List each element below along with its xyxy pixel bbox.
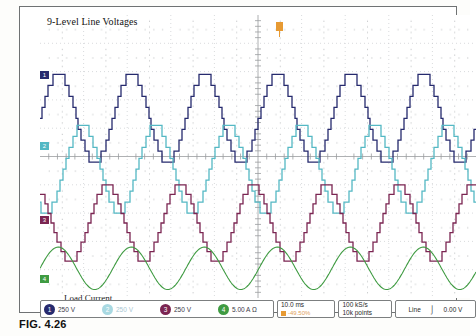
graticule-plot-area: 1 2 3 4 <box>40 15 476 298</box>
readout-bar: 1 250 V 2 250 V 3 250 V 4 5.00 A Ω 10.0 … <box>40 300 476 318</box>
channel-2-scale: 250 V <box>116 306 133 313</box>
channel-1-scale: 250 V <box>58 306 75 313</box>
trigger-offset-icon <box>281 311 286 316</box>
waveform-svg <box>40 15 476 298</box>
timebase-value: 10.0 ms <box>281 301 304 309</box>
acquisition-readout[interactable]: 100 kS/s 10k points <box>338 300 391 318</box>
channel-4-readout[interactable]: 4 5.00 A Ω <box>215 304 273 315</box>
channel-1-badge[interactable]: 1 <box>44 304 55 315</box>
channel-4-ground-marker[interactable]: 4 <box>40 275 49 283</box>
oscilloscope-display: 1 2 3 4 9-Level Line Voltages Load Curre… <box>19 6 457 313</box>
channel-3-ground-marker[interactable]: 3 <box>40 216 49 224</box>
channel-2-readout[interactable]: 2 250 V <box>99 304 157 315</box>
trigger-readout[interactable]: Line ⌡ 0.00 V <box>395 300 476 318</box>
channel-readout-group: 1 250 V 2 250 V 3 250 V 4 5.00 A Ω <box>40 300 274 318</box>
trigger-offset-readout: -49.50% <box>281 309 310 317</box>
record-length-value: 10k points <box>342 309 372 317</box>
channel-4-badge[interactable]: 4 <box>218 304 229 315</box>
channel-2-ground-marker[interactable]: 2 <box>40 142 49 150</box>
figure-caption: FIG. 4.26 <box>19 318 67 330</box>
channel-1-readout[interactable]: 1 250 V <box>41 304 99 315</box>
channel-4-scale: 5.00 A Ω <box>232 306 257 313</box>
rising-edge-icon: ⌡ <box>430 305 435 314</box>
timebase-readout[interactable]: 10.0 ms -49.50% <box>277 300 335 318</box>
trigger-position-marker[interactable] <box>276 22 283 31</box>
channel-1-ground-marker[interactable]: 1 <box>40 71 49 79</box>
sample-rate-value: 100 kS/s <box>342 301 367 309</box>
trigger-source-value: Line <box>408 306 420 313</box>
channel-3-scale: 250 V <box>174 306 191 313</box>
waveform-title-annotation: 9-Level Line Voltages <box>47 16 138 27</box>
channel-2-badge[interactable]: 2 <box>102 304 113 315</box>
trigger-level-value: 0.00 V <box>444 306 463 313</box>
channel-3-badge[interactable]: 3 <box>160 304 171 315</box>
trigger-offset-value: -49.50% <box>288 309 310 317</box>
channel-3-readout[interactable]: 3 250 V <box>157 304 215 315</box>
